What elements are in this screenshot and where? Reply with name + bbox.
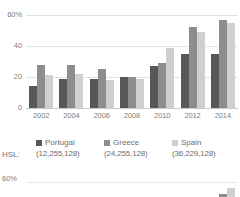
legend-items: Portugal(12,255,128)Greece(24,255,128)Sp… bbox=[36, 137, 240, 159]
bar-portugal-2006 bbox=[90, 79, 98, 108]
bar-greece-2006 bbox=[98, 69, 106, 108]
x-tick-2004: 2004 bbox=[56, 110, 86, 121]
chart2-bar-groups bbox=[26, 183, 238, 197]
bar-greece-2012 bbox=[189, 27, 197, 108]
legend-series-name: Greece bbox=[113, 137, 139, 148]
x-tick-2010: 2010 bbox=[147, 110, 177, 121]
hsl-prefix-label: HSL: bbox=[2, 150, 20, 160]
bar-group bbox=[87, 15, 117, 108]
bar-group bbox=[147, 15, 177, 108]
bar-group bbox=[26, 15, 56, 108]
legend-item-spain[interactable]: Spain(36,229,128) bbox=[172, 137, 240, 159]
x-tick-2014: 2014 bbox=[208, 110, 238, 121]
y-tick-20: 20 bbox=[0, 73, 22, 81]
bar-spain-2010 bbox=[166, 48, 174, 108]
plot-area bbox=[26, 15, 238, 108]
chart2-y-tick-60: 60% bbox=[2, 174, 17, 183]
bar-chart-primary: 60% 40 20 0 2002200420062008201020122014 bbox=[0, 0, 240, 126]
chart2-bar-group bbox=[117, 183, 147, 197]
bar-portugal-2010 bbox=[150, 66, 158, 108]
chart2-bar-group bbox=[87, 183, 117, 197]
bar-chart-secondary: 60% bbox=[0, 172, 240, 197]
x-tick-2008: 2008 bbox=[117, 110, 147, 121]
bar-group bbox=[208, 15, 238, 108]
y-tick-40: 40 bbox=[0, 42, 22, 50]
bar-group bbox=[117, 15, 147, 108]
chart2-bar-greece bbox=[219, 194, 227, 197]
bar-spain-2004 bbox=[75, 74, 83, 108]
x-tick-2012: 2012 bbox=[177, 110, 207, 121]
bar-portugal-2012 bbox=[181, 54, 189, 108]
bar-group bbox=[177, 15, 207, 108]
legend-series-name: Portugal bbox=[45, 137, 75, 148]
x-axis-line bbox=[26, 108, 238, 109]
legend-label-row: Greece bbox=[104, 137, 172, 148]
legend-label-row: Spain bbox=[172, 137, 240, 148]
bar-portugal-2004 bbox=[59, 79, 67, 108]
chart2-bar-group bbox=[177, 183, 207, 197]
bar-spain-2008 bbox=[136, 79, 144, 108]
bar-greece-2010 bbox=[158, 63, 166, 108]
legend-hsl-value: (36,229,128) bbox=[172, 148, 240, 159]
legend-item-greece[interactable]: Greece(24,255,128) bbox=[104, 137, 172, 159]
chart2-bar-spain bbox=[227, 188, 235, 197]
bar-spain-2006 bbox=[106, 80, 114, 108]
x-tick-2002: 2002 bbox=[26, 110, 56, 121]
bar-greece-2008 bbox=[128, 77, 136, 108]
bar-portugal-2008 bbox=[120, 77, 128, 108]
y-tick-0: 0 bbox=[0, 104, 22, 112]
legend-hsl-value: (24,255,128) bbox=[104, 148, 172, 159]
legend-hsl-value: (12,255,128) bbox=[36, 148, 104, 159]
chart2-bar-group bbox=[208, 183, 238, 197]
legend-swatch-icon bbox=[36, 140, 42, 146]
figure-panel: 60% 40 20 0 2002200420062008201020122014… bbox=[0, 0, 240, 197]
chart2-bar-group bbox=[26, 183, 56, 197]
bar-greece-2004 bbox=[67, 65, 75, 108]
x-axis-labels: 2002200420062008201020122014 bbox=[26, 110, 238, 121]
y-tick-60: 60% bbox=[0, 11, 22, 19]
bar-portugal-2002 bbox=[29, 86, 37, 108]
x-tick-2006: 2006 bbox=[87, 110, 117, 121]
bar-group bbox=[56, 15, 86, 108]
bar-spain-2014 bbox=[227, 23, 235, 108]
legend-series-name: Spain bbox=[181, 137, 201, 148]
bar-spain-2002 bbox=[45, 75, 53, 108]
chart-legend: HSL: Portugal(12,255,128)Greece(24,255,1… bbox=[0, 137, 240, 165]
bar-greece-2014 bbox=[219, 20, 227, 108]
bar-spain-2012 bbox=[197, 32, 205, 108]
bar-greece-2002 bbox=[37, 65, 45, 108]
legend-swatch-icon bbox=[104, 140, 110, 146]
bar-portugal-2014 bbox=[211, 54, 219, 108]
bar-groups bbox=[26, 15, 238, 108]
legend-swatch-icon bbox=[172, 140, 178, 146]
chart2-bar-group bbox=[147, 183, 177, 197]
legend-item-portugal[interactable]: Portugal(12,255,128) bbox=[36, 137, 104, 159]
legend-label-row: Portugal bbox=[36, 137, 104, 148]
chart2-bar-group bbox=[56, 183, 86, 197]
